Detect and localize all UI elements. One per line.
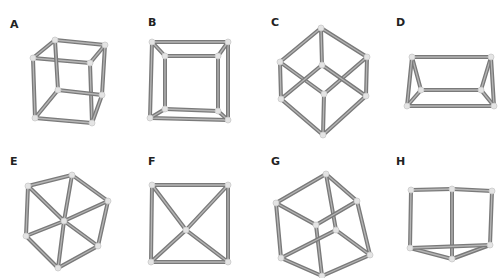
vertex — [55, 87, 61, 93]
vertex — [278, 255, 284, 261]
vertex — [273, 200, 279, 206]
edge — [321, 28, 367, 57]
vertex — [363, 93, 369, 99]
wireframe-figure-c — [277, 25, 370, 138]
edge — [28, 186, 64, 221]
vertex — [333, 227, 339, 233]
vertex — [409, 54, 415, 60]
edge — [186, 230, 228, 262]
vertex — [183, 227, 189, 233]
vertex — [225, 182, 231, 188]
vertex — [449, 256, 455, 262]
vertex — [364, 54, 370, 60]
figure-label: B — [148, 16, 156, 29]
wireframe-figure-h — [407, 186, 495, 262]
edge — [98, 201, 108, 246]
figure-label: G — [271, 155, 280, 168]
vertex — [55, 265, 61, 271]
figure-label: A — [10, 18, 19, 31]
edge — [28, 175, 72, 186]
vertex — [23, 233, 29, 239]
wireframe-figure-d — [404, 54, 497, 109]
vertex — [418, 87, 424, 93]
edge — [72, 175, 108, 201]
edge — [281, 258, 322, 276]
vertex — [89, 120, 95, 126]
vertex — [323, 171, 329, 177]
vertex — [87, 60, 93, 66]
vertex — [478, 87, 484, 93]
edge — [58, 221, 64, 268]
edge — [151, 230, 186, 262]
edge — [323, 96, 366, 135]
edge — [324, 57, 367, 94]
wireframe-figure-f — [148, 182, 231, 265]
vertex — [407, 245, 413, 251]
vertex — [102, 42, 108, 48]
edge — [280, 28, 321, 62]
vertex — [30, 55, 36, 61]
vertex — [321, 91, 327, 97]
edge — [33, 40, 55, 58]
edge — [281, 99, 323, 135]
vertex — [149, 39, 155, 45]
vertex — [278, 96, 284, 102]
vertex — [489, 188, 495, 194]
vertex — [215, 53, 221, 59]
edge — [64, 175, 72, 221]
figure-label: E — [10, 155, 18, 168]
edge — [64, 221, 98, 246]
vertex — [225, 117, 231, 123]
figure-label: F — [148, 155, 156, 168]
vertex — [105, 198, 111, 204]
vertex — [320, 132, 326, 138]
vertex — [491, 103, 497, 109]
edge — [186, 185, 228, 230]
edge — [58, 246, 98, 268]
wireframe-figure-g — [273, 171, 373, 278]
edge — [152, 185, 186, 230]
figure-label: C — [271, 16, 279, 29]
edge — [276, 203, 316, 225]
edge — [316, 225, 322, 276]
vertex — [32, 115, 38, 121]
edge — [35, 90, 58, 118]
vertex — [487, 242, 493, 248]
wireframe-figure-b — [147, 39, 231, 123]
vertex — [99, 92, 105, 98]
vertex — [408, 187, 414, 193]
vertex — [225, 259, 231, 265]
vertex — [354, 198, 360, 204]
vertex — [318, 25, 324, 31]
wireframe-canvas — [0, 0, 500, 278]
vertex — [215, 108, 221, 114]
edge — [276, 174, 326, 203]
edge — [64, 201, 108, 221]
vertex — [162, 53, 168, 59]
edge — [316, 201, 357, 225]
vertex — [319, 62, 325, 68]
vertex — [404, 103, 410, 109]
vertex — [25, 183, 31, 189]
edge — [26, 236, 58, 268]
edge — [281, 230, 336, 258]
figure-label: D — [396, 16, 405, 29]
wireframe-figure-e — [23, 172, 111, 271]
vertex — [95, 243, 101, 249]
edge — [322, 255, 370, 276]
vertex — [149, 182, 155, 188]
vertex — [488, 54, 494, 60]
edge — [281, 65, 322, 99]
vertex — [162, 106, 168, 112]
vertex — [277, 59, 283, 65]
vertex — [367, 252, 373, 258]
wireframe-figure-a — [30, 37, 108, 126]
vertex — [449, 186, 455, 192]
vertex — [225, 39, 231, 45]
vertex — [313, 222, 319, 228]
figure-label: H — [396, 155, 405, 168]
vertex — [148, 259, 154, 265]
vertex — [69, 172, 75, 178]
vertex — [319, 273, 325, 278]
edge — [26, 221, 64, 236]
